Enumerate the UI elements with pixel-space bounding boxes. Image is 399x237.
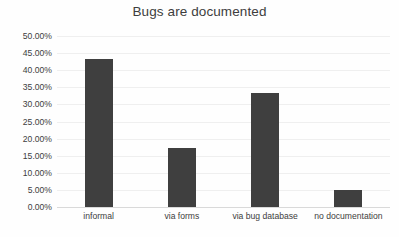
bar[interactable] xyxy=(334,190,362,207)
y-axis-tick-label: 50.00% xyxy=(0,32,52,41)
y-axis-tick-label: 30.00% xyxy=(0,100,52,109)
bar-slot xyxy=(307,36,390,207)
plot-area xyxy=(57,36,390,207)
y-axis-tick-label: 5.00% xyxy=(0,186,52,195)
bar-slot xyxy=(224,36,307,207)
x-axis: informalvia formsvia bug databaseno docu… xyxy=(57,212,390,232)
y-axis-tick-label: 0.00% xyxy=(0,203,52,212)
y-axis-tick-label: 25.00% xyxy=(0,117,52,126)
bar[interactable] xyxy=(251,93,279,207)
y-axis: 0.00%5.00%10.00%15.00%20.00%25.00%30.00%… xyxy=(0,36,52,207)
bar-slot xyxy=(57,36,140,207)
x-axis-line xyxy=(57,207,390,208)
bar[interactable] xyxy=(85,59,113,207)
x-axis-category-label: via forms xyxy=(164,212,199,221)
y-axis-tick-label: 10.00% xyxy=(0,169,52,178)
x-axis-category-label: via bug database xyxy=(232,212,297,221)
chart-title: Bugs are documented xyxy=(0,4,399,19)
y-axis-tick-label: 35.00% xyxy=(0,83,52,92)
x-axis-category-label: no documentation xyxy=(314,212,382,221)
bar[interactable] xyxy=(168,148,196,207)
y-axis-tick-label: 40.00% xyxy=(0,66,52,75)
y-axis-tick-label: 20.00% xyxy=(0,134,52,143)
y-axis-tick-label: 15.00% xyxy=(0,151,52,160)
y-axis-tick-label: 45.00% xyxy=(0,49,52,58)
x-axis-category-label: informal xyxy=(83,212,114,221)
chart-container: Bugs are documented 0.00%5.00%10.00%15.0… xyxy=(0,0,399,237)
bar-slot xyxy=(140,36,223,207)
